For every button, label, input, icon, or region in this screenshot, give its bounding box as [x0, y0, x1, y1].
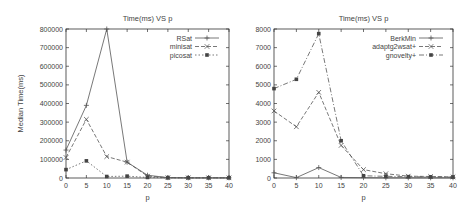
series-minisat: [64, 117, 232, 180]
y-axis-label: Median Time(ms): [16, 74, 25, 132]
y-tick-label: 0: [267, 175, 271, 182]
plot-frame: [66, 29, 229, 178]
legend-label: BerkMin: [390, 35, 416, 42]
charts-canvas: Time(ms) VS p010000020000030000040000050…: [0, 0, 474, 212]
chart-title: Time(ms) VS p: [339, 14, 389, 23]
plot-frame: [274, 29, 453, 178]
y-tick-label: 300000: [40, 119, 63, 126]
x-tick-label: 35: [205, 182, 213, 189]
y-tick-label: 2000: [255, 137, 271, 144]
y-tick-label: 7000: [255, 44, 271, 51]
legend-label: gnovelty+: [386, 52, 416, 60]
chart-title: Time(ms) VS p: [123, 14, 173, 23]
y-tick-label: 8000: [255, 26, 271, 33]
series-adaptg2wsat-: [272, 90, 456, 179]
y-tick-label: 600000: [40, 63, 63, 70]
x-tick-label: 15: [123, 182, 131, 189]
x-tick-label: 25: [382, 182, 390, 189]
y-tick-label: 200000: [40, 137, 63, 144]
legend-label: RSat: [176, 35, 192, 42]
x-axis-label: p: [361, 193, 365, 202]
y-tick-label: 5000: [255, 81, 271, 88]
x-tick-label: 5: [294, 182, 298, 189]
y-tick-label: 0: [59, 175, 63, 182]
y-tick-label: 400000: [40, 100, 63, 107]
x-tick-label: 40: [225, 182, 233, 189]
x-tick-label: 20: [360, 182, 368, 189]
figure: Time(ms) VS p010000020000030000040000050…: [0, 0, 474, 212]
x-tick-label: 40: [449, 182, 457, 189]
x-tick-label: 0: [272, 182, 276, 189]
x-tick-label: 15: [337, 182, 345, 189]
y-tick-label: 100000: [40, 156, 63, 163]
x-tick-label: 10: [315, 182, 323, 189]
legend-label: adaptg2wsat+: [372, 43, 416, 51]
y-tick-label: 800000: [40, 26, 63, 33]
x-tick-label: 35: [427, 182, 435, 189]
x-tick-label: 10: [103, 182, 111, 189]
y-tick-label: 4000: [255, 100, 271, 107]
x-tick-label: 5: [84, 182, 88, 189]
chart-left: Time(ms) VS p010000020000030000040000050…: [16, 14, 233, 202]
series-rsat: [64, 27, 232, 181]
legend-label: picosat: [170, 52, 192, 60]
y-tick-label: 6000: [255, 63, 271, 70]
x-tick-label: 20: [144, 182, 152, 189]
x-tick-label: 25: [164, 182, 172, 189]
chart-right: Time(ms) VS p010002000300040005000600070…: [255, 14, 457, 202]
x-tick-label: 0: [64, 182, 68, 189]
x-axis-label: p: [145, 193, 149, 202]
x-tick-label: 30: [184, 182, 192, 189]
x-tick-label: 30: [404, 182, 412, 189]
series-gnovelty-: [272, 32, 455, 179]
y-tick-label: 3000: [255, 119, 271, 126]
legend-label: minisat: [170, 43, 192, 50]
y-tick-label: 700000: [40, 44, 63, 51]
y-tick-label: 1000: [255, 156, 271, 163]
y-tick-label: 500000: [40, 81, 63, 88]
series-picosat: [64, 159, 231, 180]
